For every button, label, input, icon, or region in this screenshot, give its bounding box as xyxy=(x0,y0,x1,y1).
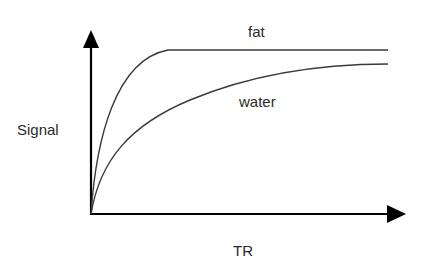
y-axis-arrow-icon xyxy=(83,30,99,48)
x-axis-arrow-icon xyxy=(387,205,406,223)
x-axis-label: TR xyxy=(233,242,253,259)
fat-label: fat xyxy=(248,23,266,40)
y-axis-label: Signal xyxy=(17,121,59,138)
water-curve xyxy=(91,64,388,214)
signal-vs-tr-chart: fat water Signal TR xyxy=(0,0,430,276)
water-label: water xyxy=(238,93,276,110)
